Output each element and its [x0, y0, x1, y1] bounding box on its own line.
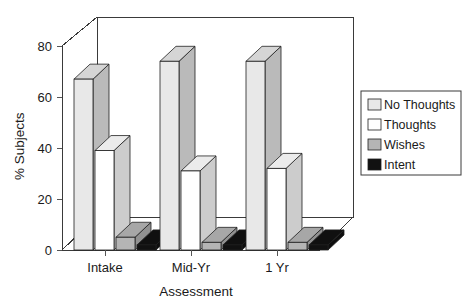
x-axis: Intake Mid-Yr 1 Yr Assessment: [87, 250, 289, 299]
legend-swatch-wishes: [368, 139, 381, 150]
y-tick-label-80: 80: [38, 39, 52, 54]
bar-front-face: [202, 242, 221, 250]
y-tick-label-20: 20: [38, 192, 52, 207]
bar-front-face: [74, 79, 93, 250]
bar-front-face: [309, 245, 328, 250]
bar-front-face: [246, 61, 265, 250]
bar-front-face: [267, 168, 286, 250]
legend-item-wishes[interactable]: Wishes: [368, 138, 425, 152]
bar-front-face: [137, 245, 156, 250]
legend-item-thoughts[interactable]: Thoughts: [368, 118, 436, 132]
x-tick-label-1yr: 1 Yr: [265, 260, 289, 275]
y-tick-label-40: 40: [38, 141, 52, 156]
legend-label-wishes: Wishes: [384, 138, 425, 152]
chart-canvas: 80 60 40 20 0 % Subjects Intake Mid-Yr 1…: [0, 0, 470, 306]
legend-swatch-thoughts: [368, 119, 381, 130]
legend: No Thoughts Thoughts Wishes Intent: [361, 91, 461, 175]
bar-front-face: [160, 61, 179, 250]
depth-edge-top-left: [62, 17, 97, 46]
legend-label-no-thoughts: No Thoughts: [384, 98, 455, 112]
bar-front-face: [95, 151, 114, 250]
legend-swatch-no-thoughts: [368, 99, 381, 110]
bar-chart: 80 60 40 20 0 % Subjects Intake Mid-Yr 1…: [0, 0, 470, 306]
bar-front-face: [181, 171, 200, 250]
y-tick-label-60: 60: [38, 90, 52, 105]
x-tick-label-intake: Intake: [87, 260, 122, 275]
legend-swatch-intent: [368, 159, 381, 170]
legend-item-intent[interactable]: Intent: [368, 158, 416, 172]
legend-label-intent: Intent: [384, 158, 416, 172]
legend-label-thoughts: Thoughts: [384, 118, 436, 132]
y-axis: 80 60 40 20 0 % Subjects: [12, 39, 62, 258]
x-axis-title: Assessment: [159, 284, 233, 299]
y-tick-label-0: 0: [45, 243, 52, 258]
bar-front-face: [223, 245, 242, 250]
back-wall: [97, 17, 353, 217]
bar-front-face: [288, 242, 307, 250]
bar-front-face: [116, 237, 135, 250]
legend-item-no-thoughts[interactable]: No Thoughts: [368, 98, 455, 112]
x-tick-label-midyr: Mid-Yr: [172, 260, 211, 275]
bars-layer: [74, 46, 344, 250]
y-axis-title: % Subjects: [12, 112, 27, 180]
